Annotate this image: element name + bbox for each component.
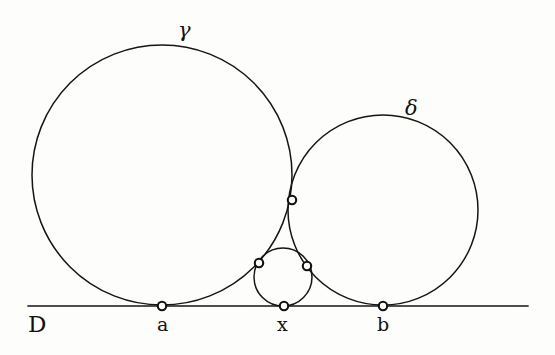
point-marker-b (379, 302, 387, 310)
label-gamma: γ (178, 20, 191, 41)
point-marker-delta-small-tangency (303, 262, 311, 270)
label-delta: δ (405, 98, 418, 119)
circle-delta (288, 115, 478, 305)
point-marker-x (280, 302, 288, 310)
label-point-a: a (157, 315, 168, 334)
circle-small-inscribed (254, 248, 312, 306)
figure-canvas: γ δ D a x b (0, 0, 555, 355)
point-marker-gamma-delta-tangency (288, 196, 296, 204)
label-point-b: b (377, 315, 389, 334)
point-marker-a (158, 302, 166, 310)
diagram-svg (0, 0, 555, 355)
circle-gamma (32, 45, 292, 305)
label-point-x: x (277, 315, 288, 334)
point-marker-gamma-small-tangency (255, 259, 263, 267)
label-line-d: D (28, 313, 46, 336)
